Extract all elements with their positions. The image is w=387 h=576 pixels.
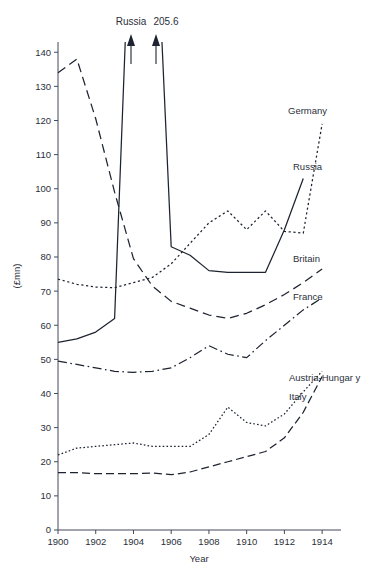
y-tick-label-50: 50: [40, 354, 51, 365]
series-line-britain: [58, 59, 322, 318]
value-arrow-label: 205.6: [153, 16, 178, 27]
series-line-russia: [162, 42, 303, 272]
y-tick-label-130: 130: [35, 81, 51, 92]
y-tick-marks: [54, 52, 58, 530]
series-label-russia: Russia: [293, 161, 323, 172]
x-tick-label-1902: 1902: [85, 536, 106, 547]
series-line-germany: [58, 124, 322, 288]
y-tick-labels: 0102030405060708090100110120130140: [35, 47, 51, 536]
series-label-britain: Britain: [293, 253, 320, 264]
series-layer: [58, 42, 322, 475]
series-label-italy: Italy: [289, 391, 307, 402]
x-tick-label-1900: 1900: [47, 536, 68, 547]
series-label-germany: Germany: [288, 105, 327, 116]
series-labels-group: Germany Russia Britain France Austria-Hu…: [288, 105, 361, 402]
russia-offscale-arrow: Russia: [116, 16, 147, 64]
chart-svg: 0102030405060708090100110120130140 19001…: [0, 0, 387, 576]
x-axis-title: Year: [189, 553, 208, 564]
series-line-italy: [58, 376, 322, 474]
x-tick-label-1908: 1908: [198, 536, 219, 547]
russia-arrow-label: Russia: [116, 16, 147, 27]
y-tick-label-120: 120: [35, 115, 51, 126]
series-label-france: France: [293, 291, 323, 302]
x-tick-label-1914: 1914: [312, 536, 333, 547]
value-offscale-arrow: 205.6: [152, 16, 179, 64]
x-tick-label-1910: 1910: [236, 536, 257, 547]
series-line-france: [58, 298, 322, 372]
x-tick-label-1906: 1906: [161, 536, 182, 547]
x-tick-label-1912: 1912: [274, 536, 295, 547]
x-tick-marks: [58, 530, 322, 534]
y-tick-label-110: 110: [36, 149, 51, 160]
y-tick-label-60: 60: [40, 320, 51, 331]
series-line-austria-hungary: [58, 371, 322, 455]
x-tick-label-1904: 1904: [123, 536, 144, 547]
y-axis-title: (£mn): [11, 264, 22, 289]
y-tick-label-100: 100: [35, 183, 51, 194]
y-tick-label-40: 40: [40, 388, 51, 399]
series-label-austria-hungary: Austria-Hungar y: [289, 372, 361, 383]
x-tick-labels: 19001902190419061908191019121914: [47, 536, 332, 547]
y-tick-label-20: 20: [40, 456, 51, 467]
y-tick-label-140: 140: [35, 47, 51, 58]
y-tick-label-30: 30: [40, 422, 51, 433]
y-tick-label-0: 0: [46, 524, 51, 535]
y-tick-label-90: 90: [40, 217, 51, 228]
y-tick-label-10: 10: [40, 490, 51, 501]
y-tick-label-80: 80: [40, 251, 51, 262]
y-tick-label-70: 70: [40, 286, 51, 297]
defence-spending-line-chart: 0102030405060708090100110120130140 19001…: [0, 0, 387, 576]
